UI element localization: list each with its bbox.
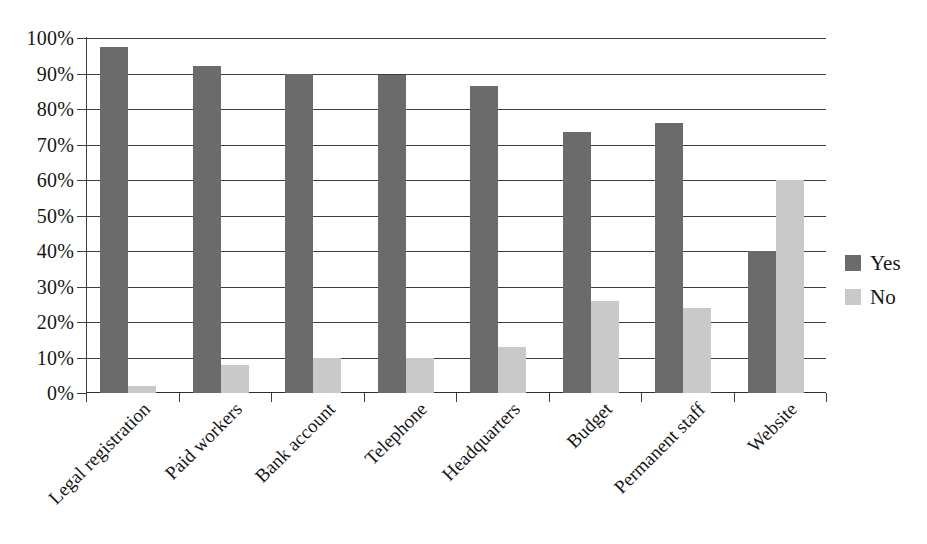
y-tick-label: 50% (37, 206, 74, 226)
y-tick-label: 20% (37, 312, 74, 332)
x-axis-category-label: Headquarters (438, 399, 524, 485)
bar-yes (100, 47, 128, 393)
y-tick-label: 10% (37, 348, 74, 368)
x-axis-category-label: Bank account (251, 399, 339, 487)
y-tick-label: 0% (47, 383, 74, 403)
grid-line (86, 38, 826, 39)
y-tick-mark (77, 287, 86, 288)
bar-no (128, 386, 156, 393)
x-axis-category-label: Website (744, 399, 801, 456)
y-tick-label: 70% (37, 135, 74, 155)
y-tick-label: 100% (27, 28, 74, 48)
y-tick-mark (77, 145, 86, 146)
x-axis-category-label: Paid workers (162, 399, 247, 484)
bar-no (221, 365, 249, 393)
bar-no (591, 301, 619, 393)
y-tick-mark (77, 358, 86, 359)
y-axis: 0%10%20%30%40%50%60%70%80%90%100% (0, 0, 84, 544)
bar-no (776, 180, 804, 393)
legend-swatch-yes-icon (845, 255, 861, 271)
x-axis-category-label: Permanent staff (610, 399, 709, 498)
bar-yes (655, 123, 683, 393)
y-tick-mark (77, 180, 86, 181)
y-tick-mark (77, 38, 86, 39)
bar-chart: 0%10%20%30%40%50%60%70%80%90%100% Legal … (0, 0, 927, 544)
x-axis-labels: Legal registrationPaid workersBank accou… (86, 393, 826, 543)
bar-yes (285, 74, 313, 394)
chart-legend: Yes No (845, 246, 927, 314)
legend-label-no: No (870, 287, 896, 308)
plot-area (86, 38, 826, 393)
legend-item-no: No (845, 280, 927, 314)
bar-no (406, 358, 434, 394)
y-tick-mark (77, 393, 86, 394)
x-tick-mark (826, 393, 827, 402)
y-tick-label: 40% (37, 241, 74, 261)
legend-item-yes: Yes (845, 246, 927, 280)
y-tick-mark (77, 216, 86, 217)
bar-yes (193, 66, 221, 393)
y-tick-label: 60% (37, 170, 74, 190)
bar-yes (748, 251, 776, 393)
y-tick-mark (77, 251, 86, 252)
bar-no (313, 358, 341, 394)
x-axis-category-label: Telephone (361, 399, 431, 469)
legend-swatch-no-icon (845, 289, 861, 305)
bar-yes (470, 86, 498, 393)
y-tick-mark (77, 109, 86, 110)
bar-no (498, 347, 526, 393)
y-tick-label: 80% (37, 99, 74, 119)
y-tick-label: 90% (37, 64, 74, 84)
y-tick-mark (77, 74, 86, 75)
y-tick-mark (77, 322, 86, 323)
bar-yes (378, 75, 406, 393)
y-tick-label: 30% (37, 277, 74, 297)
bar-yes (563, 132, 591, 393)
legend-label-yes: Yes (870, 253, 901, 274)
bar-no (683, 308, 711, 393)
x-axis-category-label: Budget (563, 399, 616, 452)
